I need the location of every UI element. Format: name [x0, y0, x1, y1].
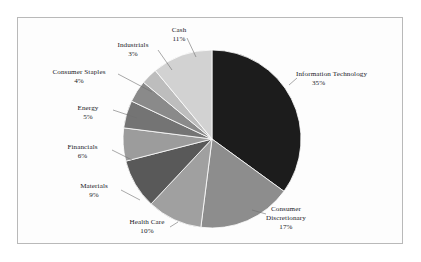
slice-label-text-line2: Discretionary	[266, 214, 306, 223]
slice-percent: 11%	[160, 35, 198, 44]
slice-label-text: Cash	[160, 26, 198, 35]
slice-percent: 5%	[66, 113, 110, 122]
leader-line-materials	[121, 190, 140, 200]
pie-slices	[123, 50, 301, 228]
slice-label-text: Energy	[66, 104, 110, 113]
slice-percent: 4%	[42, 77, 116, 86]
slice-label-text: Information Technology	[296, 70, 367, 79]
slice-label-materials: Materials 9%	[68, 182, 120, 200]
slice-percent: 6%	[55, 152, 110, 161]
slice-percent: 3%	[110, 50, 156, 59]
slice-label-text: Industrials	[110, 41, 156, 50]
slice-percent: 35%	[296, 79, 367, 88]
slice-label-text: Consumer Staples	[42, 68, 116, 77]
slice-label-industrials: Industrials 3%	[110, 41, 156, 59]
slice-label-health-care: Health Care 10%	[119, 218, 175, 236]
slice-label-text: Consumer	[266, 205, 306, 214]
chart-page: Information Technology 35% Consumer Disc…	[0, 0, 421, 262]
pie-chart	[0, 0, 421, 262]
slice-percent: 17%	[266, 223, 306, 232]
slice-label-consumer-discretionary: Consumer Discretionary 17%	[266, 205, 306, 233]
slice-label-text: Financials	[55, 143, 110, 152]
slice-label-cash: Cash 11%	[160, 26, 198, 44]
slice-label-financials: Financials 6%	[55, 143, 110, 161]
slice-percent: 10%	[119, 227, 175, 236]
slice-label-energy: Energy 5%	[66, 104, 110, 122]
slice-label-information-technology: Information Technology 35%	[296, 70, 367, 88]
slice-label-text: Materials	[68, 182, 120, 191]
slice-label-consumer-staples: Consumer Staples 4%	[42, 68, 116, 86]
slice-label-text: Health Care	[119, 218, 175, 227]
slice-percent: 9%	[68, 191, 120, 200]
